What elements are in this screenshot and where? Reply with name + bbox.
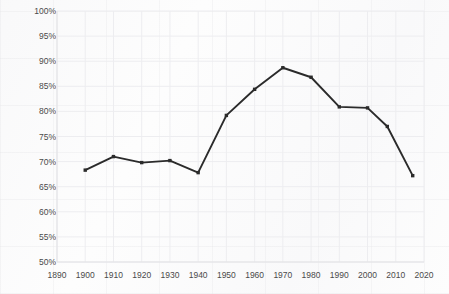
- plot-area: [0, 0, 449, 294]
- data-series-line: [85, 68, 412, 176]
- grid-lines: [57, 11, 424, 262]
- chart-container: Young adults (25–29) living on their own…: [0, 0, 449, 294]
